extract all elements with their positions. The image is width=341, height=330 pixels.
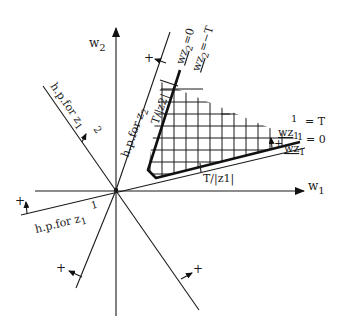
hyperplane-z2: [76, 32, 170, 288]
w1-axis-label: w1: [308, 179, 325, 196]
w2-axis-label: w2: [89, 36, 106, 53]
svg-text:wz1: wz1: [284, 142, 305, 157]
svg-text:T/|z2|: T/|z2|: [149, 92, 173, 126]
svg-text:+: +: [274, 137, 283, 150]
svg-text:h.p.for z1: h.p.for z1: [34, 211, 88, 238]
hp-lower-left-plus-arrow: +: [56, 261, 82, 277]
svg-text:+: +: [193, 262, 203, 276]
label-hp-z1-2: h.p.for z1 2: [46, 80, 104, 135]
svg-text:+: +: [56, 261, 66, 275]
svg-text:1: 1: [90, 199, 99, 211]
svg-text:= 0: = 0: [306, 133, 326, 146]
svg-text:h.p.for z1: h.p.for z1: [46, 80, 88, 131]
hyperplane-z1-2: [43, 86, 199, 310]
svg-text:T/|z1|: T/|z1|: [203, 172, 234, 186]
svg-text:1: 1: [291, 113, 297, 124]
hp-z1-1-plus-arrow: +: [15, 194, 27, 214]
svg-text:2: 2: [91, 124, 104, 136]
svg-text:+: +: [15, 194, 25, 208]
svg-text:+: +: [144, 51, 154, 65]
svg-text:= T: = T: [305, 115, 326, 128]
hyperplane-z1-1: [21, 148, 305, 215]
solution-region-hatch: [140, 60, 305, 190]
svg-text:h.p.for z2: h.p.for z2: [119, 106, 151, 160]
diagram-canvas: w2 w1 + + + +: [0, 0, 341, 330]
hp-z1-2-small-arrow: [82, 134, 86, 142]
svg-text:1: 1: [297, 131, 303, 142]
hp-lower-right-plus-arrow: +: [181, 262, 203, 279]
label-hp-z2: h.p.for z2: [119, 106, 151, 160]
